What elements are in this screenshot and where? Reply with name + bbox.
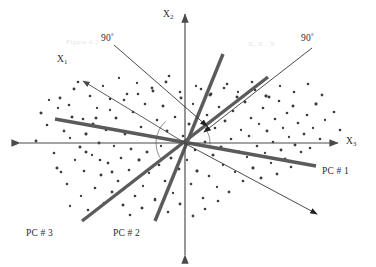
scatter-point: [134, 195, 137, 198]
angle-arc: [156, 121, 166, 160]
scatter-point: [96, 107, 98, 109]
scatter-point: [140, 126, 143, 129]
scatter-point: [48, 99, 50, 101]
scatter-point: [288, 136, 290, 138]
scatter-point: [154, 198, 156, 200]
scatter-point: [73, 88, 76, 91]
scatter-point: [282, 127, 284, 129]
scatter-point: [264, 152, 266, 154]
scatter-point: [174, 116, 177, 119]
scatter-point: [307, 83, 310, 86]
scatter-point: [180, 97, 183, 100]
scatter-point: [59, 97, 62, 100]
scatter-point: [70, 115, 74, 119]
scatter-point: [314, 102, 318, 106]
scatter-point: [217, 200, 220, 203]
scatter-point: [206, 114, 209, 117]
scatter-point: [192, 103, 194, 105]
scatter-point: [99, 173, 103, 177]
watermark-left: Figure 4.2: [66, 38, 99, 46]
scatter-point: [148, 172, 150, 174]
angle-label-left: 90°: [101, 33, 114, 43]
scatter-point: [161, 104, 165, 108]
scatter-point: [286, 112, 289, 115]
scatter-point: [118, 77, 120, 79]
scatter-point: [297, 122, 300, 125]
scatter-point: [259, 176, 263, 180]
pc-label-pc1: PC # 1: [322, 166, 349, 176]
scatter-point: [111, 191, 114, 194]
scatter-point: [168, 75, 171, 78]
scatter-point: [152, 90, 155, 93]
scatter-point: [227, 190, 231, 194]
scatter-point: [167, 211, 170, 214]
scatter-point: [195, 85, 197, 87]
scatter-point: [140, 206, 144, 210]
scatter-point: [91, 154, 93, 156]
scatter-point: [230, 138, 233, 141]
scatter-point: [78, 145, 82, 149]
scatter-point: [46, 124, 49, 127]
scatter-point: [114, 116, 118, 120]
scatter-point: [179, 91, 182, 94]
scatter-point: [144, 103, 147, 106]
scatter-point: [142, 185, 144, 187]
scatter-point: [250, 117, 253, 120]
scatter-point: [126, 93, 129, 96]
scatter-point: [84, 132, 88, 136]
scatter-point: [246, 156, 248, 158]
scatter-point: [169, 156, 173, 160]
scatter-point: [187, 122, 191, 126]
scatter-point: [172, 192, 174, 194]
axis-label-subscript: 1: [64, 58, 68, 65]
scatter-point: [182, 135, 185, 138]
scatter-point: [83, 170, 86, 173]
scatter-point: [293, 91, 296, 94]
scatter-point: [53, 152, 56, 155]
scatter-point: [57, 107, 59, 109]
scatter-point: [256, 145, 259, 148]
scatter-point: [309, 147, 312, 150]
scatter-point: [160, 145, 162, 147]
scatter-point: [123, 99, 126, 102]
angle-label-right: 90°: [301, 33, 314, 43]
scatter-point: [87, 209, 90, 212]
scatter-point: [312, 127, 314, 129]
scatter-point: [300, 151, 303, 154]
scatter-point: [150, 86, 154, 90]
scatter-point: [202, 197, 205, 200]
scatter-point: [290, 166, 293, 169]
scatter-point: [302, 132, 306, 136]
scatter-point: [266, 130, 269, 133]
scatter-point: [262, 107, 265, 110]
axis-label-x1: X1: [57, 54, 68, 64]
coordinate-axes-group: [20, 14, 338, 255]
scatter-point: [190, 183, 193, 186]
scatter-point: [237, 91, 239, 93]
scatter-point: [102, 85, 104, 87]
pc-label-pc2: PC # 2: [113, 228, 140, 238]
scatter-point: [186, 159, 188, 161]
scatter-point: [179, 203, 182, 206]
axis-label-subscript: 2: [170, 13, 174, 20]
scatter-point: [223, 87, 226, 90]
scatter-point: [69, 205, 71, 207]
scatter-point: [270, 162, 272, 164]
degree-symbol: °: [111, 32, 114, 39]
scatter-point: [128, 169, 131, 172]
scatter-point: [66, 183, 69, 186]
pc-label-pc3: PC # 3: [26, 228, 53, 238]
scatter-point: [94, 187, 97, 190]
scatter-point: [156, 119, 159, 122]
scatter-point: [62, 129, 66, 133]
scatter-point: [251, 81, 254, 84]
scatter-point: [278, 100, 281, 103]
scatter-point: [191, 214, 195, 218]
scatter-point: [291, 104, 295, 108]
scatter-point: [294, 144, 297, 147]
scatter-point: [145, 150, 149, 154]
scatter-point: [99, 159, 102, 162]
scatter-point: [333, 111, 336, 114]
scatter-point: [195, 169, 199, 173]
scatter-point: [234, 171, 236, 173]
